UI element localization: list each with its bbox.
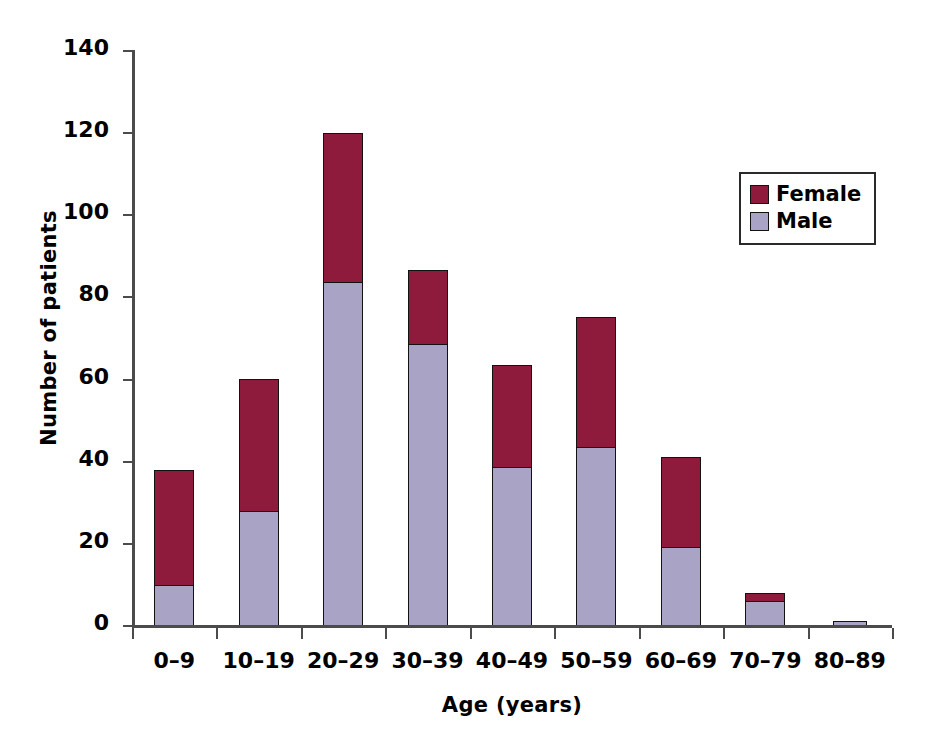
stacked-bar[interactable] [154, 470, 194, 625]
y-axis-tick: 20 [123, 543, 132, 545]
legend-swatch-icon [750, 185, 769, 204]
y-axis-tick: 60 [123, 379, 132, 381]
x-axis-title: Age (years) [132, 693, 892, 717]
y-axis-tick: 40 [123, 461, 132, 463]
stacked-bar-chart: Number of patients 020406080100120140 0–… [0, 0, 942, 734]
bar-segment-male[interactable] [834, 622, 866, 625]
bar-segment-male[interactable] [324, 283, 362, 625]
stacked-bar[interactable] [323, 133, 363, 625]
bar-segment-female[interactable] [577, 318, 615, 448]
x-axis-tick [470, 628, 472, 639]
y-axis-tick: 0 [123, 625, 132, 627]
x-axis-tick [132, 628, 134, 639]
y-axis-tick-label: 20 [78, 530, 109, 552]
y-axis-line [132, 50, 135, 626]
bar-segment-female[interactable] [409, 271, 447, 346]
y-axis-tick: 80 [123, 296, 132, 298]
x-axis-tick [216, 628, 218, 639]
bar-segment-female[interactable] [155, 471, 193, 586]
bar-segment-male[interactable] [240, 512, 278, 625]
bar-segment-male[interactable] [155, 586, 193, 625]
x-axis-label: 0–9 [132, 648, 216, 673]
chart-legend: FemaleMale [739, 172, 876, 245]
stacked-bar[interactable] [661, 457, 701, 625]
bar-segment-female[interactable] [493, 366, 531, 469]
x-axis-label: 20–29 [301, 648, 385, 673]
bar-segment-male[interactable] [493, 468, 531, 625]
stacked-bar[interactable] [576, 317, 616, 625]
x-axis-label: 10–19 [216, 648, 300, 673]
bar-segment-male[interactable] [746, 602, 784, 625]
stacked-bar[interactable] [745, 593, 785, 625]
legend-item-female[interactable]: Female [750, 181, 861, 208]
x-axis-tick [639, 628, 641, 639]
bar-segment-male[interactable] [409, 345, 447, 625]
x-axis-label: 60–69 [639, 648, 723, 673]
x-axis-tick [385, 628, 387, 639]
y-axis-tick-label: 0 [94, 612, 109, 634]
y-axis-tick-label: 80 [78, 283, 109, 305]
stacked-bar[interactable] [492, 365, 532, 625]
y-axis-tick-label: 120 [63, 119, 109, 141]
x-axis-line [132, 625, 892, 628]
y-axis-tick-label: 60 [78, 366, 109, 388]
stacked-bar[interactable] [408, 270, 448, 625]
bar-segment-male[interactable] [662, 548, 700, 625]
x-axis-label: 70–79 [723, 648, 807, 673]
y-axis-tick-label: 140 [63, 37, 109, 59]
x-axis-tick [554, 628, 556, 639]
stacked-bar[interactable] [239, 379, 279, 625]
y-axis-title: Number of patients [37, 178, 61, 478]
bar-segment-male[interactable] [577, 448, 615, 625]
bar-segment-female[interactable] [746, 594, 784, 602]
x-axis-label: 80–89 [808, 648, 892, 673]
legend-swatch-icon [750, 212, 769, 231]
bar-segment-female[interactable] [662, 458, 700, 549]
y-axis-tick-label: 40 [78, 448, 109, 470]
legend-label: Female [776, 184, 861, 205]
x-axis-label: 50–59 [554, 648, 638, 673]
x-axis-label: 30–39 [385, 648, 469, 673]
y-axis-tick: 120 [123, 132, 132, 134]
legend-item-male[interactable]: Male [750, 208, 861, 235]
x-axis-tick [723, 628, 725, 639]
y-axis-tick: 140 [123, 50, 132, 52]
bar-segment-female[interactable] [324, 134, 362, 282]
plot-area: 020406080100120140 0–910–1920–2930–3940–… [132, 50, 892, 625]
x-axis-tick [808, 628, 810, 639]
x-axis-label: 40–49 [470, 648, 554, 673]
x-axis-tick [892, 628, 894, 639]
legend-label: Male [776, 211, 833, 232]
y-axis-tick: 100 [123, 214, 132, 216]
stacked-bar[interactable] [833, 621, 867, 625]
bar-segment-female[interactable] [240, 380, 278, 511]
x-axis-tick [301, 628, 303, 639]
y-axis-tick-label: 100 [63, 201, 109, 223]
